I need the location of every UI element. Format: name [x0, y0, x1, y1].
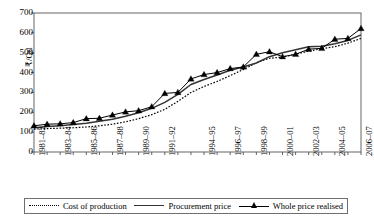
triangle-marker-line-icon [239, 202, 269, 210]
data-point-marker [266, 48, 272, 54]
y-tick-label: 100 [20, 127, 34, 136]
y-tick-label: 700 [20, 8, 34, 17]
chart-legend: Cost of production Procurement price Who… [24, 198, 348, 214]
y-tick-label: 600 [20, 28, 34, 37]
solid-line-icon [134, 202, 164, 210]
legend-label: Whole price realised [273, 201, 343, 211]
legend-item-cost-of-production: Cost of production [29, 201, 127, 211]
legend-item-procurement-price: Procurement price [134, 201, 231, 211]
y-axis-ticks: 0100200300400500600700 [0, 0, 33, 160]
y-tick-label: 500 [20, 48, 34, 57]
legend-label: Procurement price [168, 201, 231, 211]
data-point-marker [345, 35, 351, 41]
y-tick-label: 300 [20, 87, 34, 96]
legend-item-whole-price-realised: Whole price realised [239, 201, 343, 211]
legend-label: Cost of production [63, 201, 127, 211]
y-tick-label: 200 [20, 107, 34, 116]
series-line [34, 38, 361, 129]
series-line [34, 28, 361, 125]
data-point-marker [358, 25, 364, 31]
y-tick-label: 400 [20, 68, 34, 77]
y-tick-label: 0 [29, 147, 34, 156]
dotted-line-icon [29, 202, 59, 210]
